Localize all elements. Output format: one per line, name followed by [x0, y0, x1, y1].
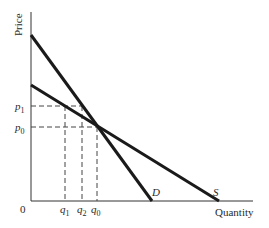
demand-label: D	[151, 186, 160, 198]
y-axis-label: Price	[12, 13, 24, 36]
supply-demand-diagram: Price Quantity 0 D S p1 p0 q1 q2 q0	[0, 0, 269, 228]
supply-label: S	[213, 186, 219, 198]
q1-label: q1	[60, 203, 70, 218]
q2-label: q2	[77, 203, 87, 218]
supply-curve	[31, 85, 219, 201]
p0-label: p0	[14, 121, 25, 136]
q0-label: q0	[91, 203, 101, 218]
x-axis-label: Quantity	[215, 206, 254, 218]
p1-label: p1	[14, 100, 25, 115]
origin-label: 0	[20, 203, 26, 215]
demand-curve	[31, 35, 152, 201]
